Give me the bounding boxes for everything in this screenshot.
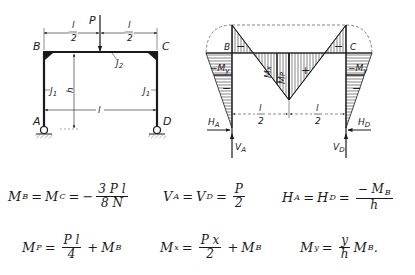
right-column-inertia-label: J1	[141, 86, 150, 98]
reaction-va-label: VA	[235, 142, 246, 154]
svg-text:−: −	[236, 40, 245, 53]
haunch-c-icon	[148, 53, 156, 60]
svg-text:l: l	[128, 20, 131, 30]
svg-text:−: −	[222, 82, 231, 95]
portal-frame: P l 2 l 2 B C J2 J1 J1 h l	[32, 14, 171, 139]
equation-va: VA = VD = P2	[163, 183, 248, 210]
md-mp-label: MP	[277, 71, 287, 84]
haunch-b-icon	[45, 53, 53, 60]
svg-text:−: −	[334, 40, 343, 53]
support-label-a: A	[32, 115, 41, 128]
equation-ha: HA = HD = − MBh	[282, 183, 396, 212]
equation-mx: Mx = P x2 + MB	[160, 234, 262, 261]
reaction-vd-label: VD	[333, 142, 345, 154]
equation-mp: MP = P l4 + MB	[22, 234, 121, 261]
reaction-ha-label: HA	[208, 117, 220, 129]
corner-label-b: B	[33, 40, 41, 53]
corner-label-c: C	[162, 40, 170, 53]
svg-text:2: 2	[127, 33, 133, 43]
left-column-inertia-label: J1	[48, 86, 57, 98]
support-label-d: D	[163, 115, 171, 128]
svg-text:2: 2	[71, 33, 77, 43]
beam-inertia-label: J2	[114, 58, 124, 70]
md-mx-label: Mx	[263, 65, 273, 78]
equation-my: My = yh MB .	[300, 234, 378, 261]
pin-support-d-icon	[148, 127, 166, 139]
moment-diagram: B C − − + Mx MP −My −My − − l 2 l 2 HA H…	[206, 25, 372, 158]
md-corner-b: B	[224, 42, 230, 52]
reaction-hd-label: HD	[358, 117, 371, 129]
load-label: P	[89, 14, 96, 27]
svg-text:2: 2	[258, 116, 264, 126]
pin-support-a-icon	[35, 127, 53, 139]
svg-text:2: 2	[315, 116, 321, 126]
svg-text:−: −	[352, 82, 361, 95]
md-corner-c: C	[350, 42, 357, 52]
svg-text:h: h	[65, 87, 75, 93]
svg-text:l: l	[72, 20, 75, 30]
md-plus: +	[301, 64, 310, 77]
equation-mb: MB = MC = − 3 P l8 N	[8, 183, 131, 210]
